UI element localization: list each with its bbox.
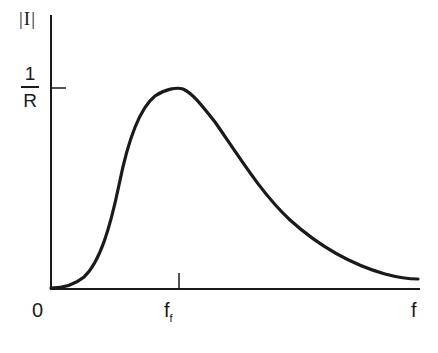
fraction-numerator: 1	[21, 64, 39, 84]
x-origin-label: 0	[32, 300, 43, 320]
fraction-denominator: R	[21, 91, 39, 111]
y-tick-label-fraction: 1 R	[21, 64, 39, 111]
x-tick-label-ff: ff	[164, 300, 173, 324]
resonance-plot	[0, 0, 438, 353]
resonance-curve	[51, 88, 418, 288]
y-axis-label: |I|	[19, 9, 36, 28]
x-axis-label: f	[411, 300, 417, 320]
fraction-bar	[21, 86, 39, 88]
ff-subscript: f	[170, 312, 173, 324]
